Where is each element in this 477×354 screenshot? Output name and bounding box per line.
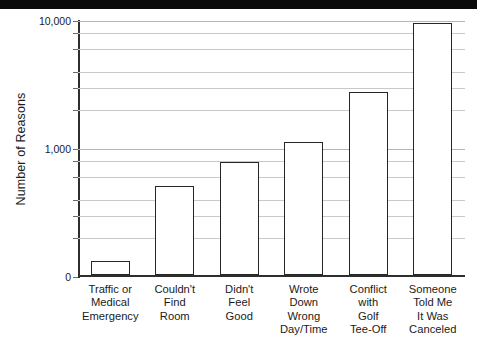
x-axis-category-label-line: Wrote (273, 283, 336, 296)
x-axis-category-label-line: Traffic or (79, 283, 142, 296)
y-axis-tick (73, 21, 78, 22)
x-axis-category-label-line: Day/Time (273, 323, 336, 336)
gridline-minor (78, 88, 465, 89)
x-axis-category-label-line: Tee-Off (337, 323, 400, 336)
x-axis-category-label: Didn'tFeelGood (207, 283, 272, 351)
gridline-minor (78, 200, 465, 201)
x-axis-category-label-line: Room (144, 310, 207, 323)
x-axis-category-label-line: Emergency (79, 310, 142, 323)
y-axis-tick-label: 1,000 (45, 143, 71, 155)
x-axis-category-label-line: Canceled (402, 323, 465, 336)
y-axis-minor-tick (73, 177, 78, 178)
bar-chart-figure: Number of Reasons 10,0001,0000 Traffic o… (0, 0, 477, 354)
top-black-banner (0, 0, 477, 9)
gridline-major (78, 21, 465, 22)
gridline-minor (78, 49, 465, 50)
y-axis-minor-tick (73, 161, 78, 162)
y-axis-tick (73, 149, 78, 150)
gridline-minor (78, 177, 465, 178)
x-axis-category-label-line: Wrong (273, 310, 336, 323)
x-axis-category-label: SomeoneTold MeIt WasCanceled (401, 283, 466, 351)
bar (155, 186, 194, 275)
x-axis-category-label-line: Someone (402, 283, 465, 296)
gridline-minor (78, 238, 465, 239)
y-axis-tick (73, 277, 78, 278)
x-axis-category-label: Couldn'tFindRoom (143, 283, 208, 351)
x-axis-category-label-line: Couldn't (144, 283, 207, 296)
x-axis-category-label-line: Find (144, 296, 207, 309)
x-axis-category-label-line: Good (208, 310, 271, 323)
x-axis-category-labels: Traffic orMedicalEmergencyCouldn'tFindRo… (78, 283, 465, 351)
gridline-minor (78, 216, 465, 217)
x-axis-category-label-line: Down (273, 296, 336, 309)
x-axis-category-label-line: Feel (208, 296, 271, 309)
x-axis-category-label: Traffic orMedicalEmergency (78, 283, 143, 351)
y-axis-minor-tick (73, 200, 78, 201)
bar (349, 92, 388, 275)
y-axis-minor-tick (73, 88, 78, 89)
y-axis-minor-tick (73, 216, 78, 217)
x-axis-category-label-line: It Was (402, 310, 465, 323)
y-axis-tick-label: 0 (65, 271, 71, 283)
gridline-minor (78, 72, 465, 73)
y-axis-minor-tick (73, 72, 78, 73)
bar (91, 261, 130, 276)
y-axis-minor-tick (73, 110, 78, 111)
bar (284, 142, 323, 275)
x-axis-category-label-line: Didn't (208, 283, 271, 296)
gridline-major (78, 149, 465, 150)
y-axis-tick-label: 10,000 (39, 15, 71, 27)
x-axis-category-label: ConflictwithGolfTee-Off (336, 283, 401, 351)
bar (413, 23, 452, 275)
x-axis-category-label-line: Told Me (402, 296, 465, 309)
gridline-minor (78, 33, 465, 34)
x-axis-spine (78, 275, 465, 277)
bar (220, 162, 259, 275)
y-axis-title: Number of Reasons (10, 21, 32, 277)
x-axis-category-label-line: Conflict (337, 283, 400, 296)
gridline-minor (78, 161, 465, 162)
plot-area: 10,0001,0000 (78, 21, 465, 277)
gridline-minor (78, 110, 465, 111)
y-axis-minor-tick (73, 49, 78, 50)
x-axis-category-label-line: with (337, 296, 400, 309)
y-axis-minor-tick (73, 33, 78, 34)
x-axis-category-label: WroteDownWrongDay/Time (272, 283, 337, 351)
y-axis-minor-tick (73, 238, 78, 239)
x-axis-category-label-line: Golf (337, 310, 400, 323)
x-axis-category-label-line: Medical (79, 296, 142, 309)
